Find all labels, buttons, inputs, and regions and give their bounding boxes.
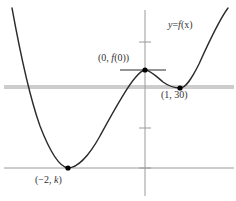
local-min-point-label: (1, 30) [161, 90, 188, 100]
global-min-label-prefix: (−2, [35, 174, 54, 185]
local-max-point-label: (0, f(0)) [98, 53, 129, 63]
global-min-point-label: (−2, k) [35, 175, 62, 185]
curve-equation-label: y=f(x) [168, 20, 193, 30]
global-min-label-suffix: ) [58, 174, 61, 185]
function-graph-figure: y=f(x) (0, f(0)) (1, 30) (−2, k) [0, 0, 236, 201]
curve-equation-arg: (x) [181, 19, 193, 30]
local-max-label-suffix: (0)) [114, 52, 129, 63]
plot-canvas [0, 0, 236, 201]
point-local-max [142, 67, 147, 72]
local-max-label-prefix: (0, [98, 52, 111, 63]
point-global-min [65, 165, 70, 170]
